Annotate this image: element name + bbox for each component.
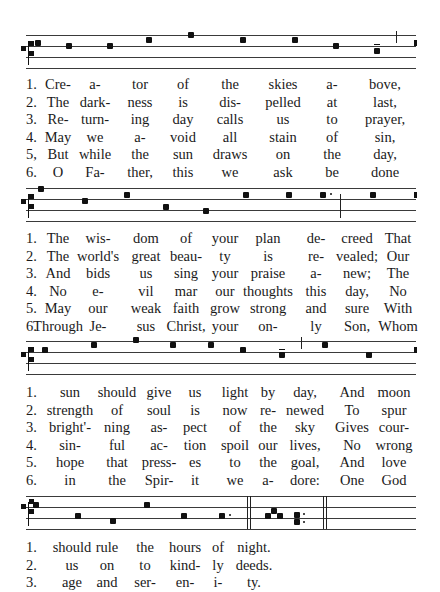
lyric-syllable: But — [48, 146, 69, 164]
lyric-syllable: ly — [212, 557, 223, 575]
lyric-syllable: moon — [377, 384, 410, 402]
lyric-syllable: May — [45, 129, 72, 147]
lyric-syllable: May — [45, 300, 72, 318]
punctum-note — [124, 192, 130, 198]
staff-system-2 — [26, 188, 416, 222]
lyric-syllable: spur — [382, 402, 407, 420]
neume-note — [265, 513, 271, 519]
lyric-syllable: soul — [147, 402, 171, 420]
lyric-syllable: sin- — [59, 437, 81, 455]
lyric-syllable: sun — [60, 384, 80, 402]
lyric-syllable: is — [263, 248, 273, 266]
lyric-syllable: our — [88, 300, 107, 318]
lyric-syllable: by — [261, 384, 276, 402]
lyric-syllable: The — [387, 265, 410, 283]
lyric-syllable: es — [189, 454, 201, 472]
lyric-syllable: day, — [373, 146, 397, 164]
punctum-note — [144, 502, 150, 508]
staff-line — [26, 507, 416, 508]
punctum-note — [366, 352, 372, 358]
verse-line: 2.Thedark-nessisdis-pelledatlast, — [26, 94, 426, 112]
lyric-syllable: No — [343, 437, 361, 455]
lyric-syllable: skies — [269, 76, 298, 94]
verse-line: 6.OFa-ther,thisweaskbedone — [26, 164, 426, 182]
lyric-syllable: The — [47, 94, 70, 112]
lyric-syllable: en- — [176, 574, 195, 592]
lyric-syllable: Whom — [378, 318, 417, 336]
lyric-syllable: calls — [217, 111, 244, 129]
verse-line: 2.Theworld'sgreatbeau-tyisre-vealed;Our — [26, 248, 426, 266]
final-note — [294, 512, 300, 518]
lyric-syllable: The — [47, 230, 70, 248]
lyric-syllable: dom — [133, 230, 159, 248]
staff-line — [26, 374, 416, 375]
lyric-syllable: sure — [345, 300, 369, 318]
lyric-syllable: Through — [33, 318, 83, 336]
mora-dot — [303, 521, 305, 523]
lyric-syllable: ask — [273, 164, 292, 182]
lyric-syllable: de- — [307, 230, 326, 248]
verse-number: 3. — [26, 419, 37, 437]
verse-number: 2. — [26, 94, 37, 112]
lyric-syllable: cour- — [379, 419, 409, 437]
verse-number: 1. — [26, 230, 37, 248]
punctum-note — [38, 186, 44, 192]
lyric-syllable: Son, — [344, 318, 370, 336]
staff-line — [26, 210, 416, 211]
lyric-syllable: Cre- — [45, 76, 71, 94]
lyric-syllable: press- — [142, 454, 177, 472]
punctum-note — [203, 208, 209, 214]
lyric-syllable: day, — [293, 384, 317, 402]
punctum-note — [240, 37, 246, 43]
lyric-syllable: pelled — [265, 94, 300, 112]
lyric-syllable: last, — [373, 94, 397, 112]
lyric-syllable: Je- — [90, 318, 107, 336]
lyric-syllable: To — [344, 402, 359, 420]
lyric-syllable: ty. — [247, 574, 261, 592]
punctum-note — [110, 518, 116, 524]
verse-number: 4. — [26, 129, 37, 147]
lyric-syllable: mar — [175, 283, 198, 301]
lyric-syllable: the — [136, 539, 154, 557]
lyric-syllable: to — [139, 557, 150, 575]
bar-line — [323, 496, 324, 529]
lyric-syllable: as- — [151, 419, 168, 437]
lyric-syllable: i- — [214, 574, 223, 592]
lyric-syllable: of — [326, 129, 338, 147]
lyric-syllable: to — [326, 111, 337, 129]
bar-line — [326, 496, 327, 529]
lyric-syllable: world's — [77, 248, 119, 266]
verse-line: 2.strengthofsoulisnowre-newedTospur — [26, 402, 426, 420]
verse-block-2: 1.Thewis-domofyourplande-creedThat2.Thew… — [26, 230, 426, 335]
verse-line: 2.usontokind-lydeeds. — [26, 557, 426, 575]
lyric-syllable: kind- — [170, 557, 201, 575]
lyric-syllable: stain — [269, 129, 296, 147]
verse-number: 2. — [26, 402, 37, 420]
staff-line — [26, 35, 416, 36]
lyric-syllable: the — [323, 146, 341, 164]
c-clef-icon — [24, 192, 38, 216]
verse-line: 3.Re-turn-ingdaycallsustoprayer, — [26, 111, 426, 129]
final-note — [294, 519, 300, 525]
lyric-syllable: One — [340, 472, 364, 490]
bar-line — [340, 194, 341, 218]
lyric-syllable: faith — [173, 300, 200, 318]
lyric-syllable: draws — [213, 146, 248, 164]
lyric-syllable: thoughts — [243, 283, 293, 301]
lyric-syllable: wrong — [375, 437, 412, 455]
lyric-syllable: of — [180, 230, 192, 248]
lyric-syllable: e- — [92, 283, 103, 301]
staff-line — [26, 352, 416, 353]
bar-line — [247, 496, 248, 529]
lyric-syllable: weak — [131, 300, 162, 318]
lyric-syllable: prayer, — [365, 111, 405, 129]
lyric-syllable: rule — [96, 539, 119, 557]
verse-number: 6. — [26, 472, 37, 490]
punctum-note — [75, 513, 81, 519]
lyric-syllable: sin, — [375, 129, 396, 147]
lyric-syllable: sun — [173, 146, 193, 164]
lyric-syllable: of — [177, 76, 189, 94]
lyric-syllable: light — [222, 384, 249, 402]
lyric-syllable: is — [178, 94, 188, 112]
lyric-syllable: age — [62, 574, 82, 592]
